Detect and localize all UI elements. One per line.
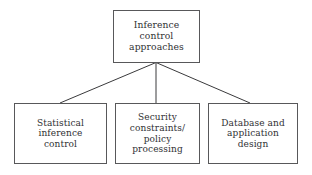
- node-inference-control-approaches[interactable]: Inference control approaches: [113, 10, 200, 63]
- node-statistical-label: Statistical inference control: [37, 118, 84, 150]
- node-root-label: Inference control approaches: [129, 20, 184, 53]
- node-database-and-application-design[interactable]: Database and application design: [208, 103, 298, 164]
- node-statistical-inference-control[interactable]: Statistical inference control: [14, 103, 107, 164]
- node-database-label: Database and application design: [221, 118, 285, 150]
- node-security-constraints-policy-processing[interactable]: Security constraints/ policy processing: [115, 103, 200, 164]
- connector-root-to-database: [156, 63, 250, 104]
- diagram-canvas: Inference control approaches Statistical…: [0, 0, 312, 175]
- node-security-label: Security constraints/ policy processing: [130, 112, 185, 154]
- connector-root-to-statistical: [60, 63, 156, 104]
